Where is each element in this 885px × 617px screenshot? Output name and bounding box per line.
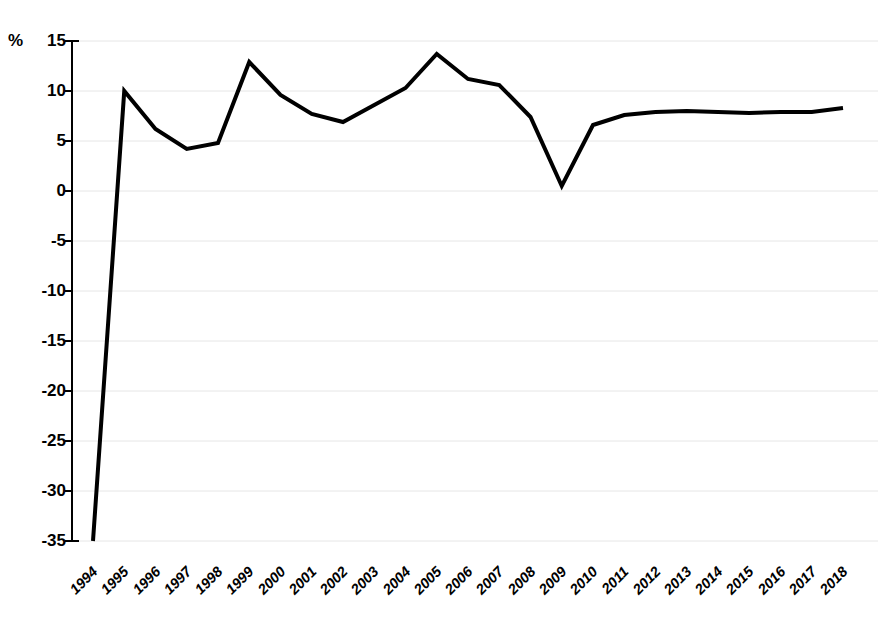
y-axis-ticks	[65, 41, 72, 541]
plot-area	[0, 0, 885, 617]
line-chart: % 151050-5-10-15-20-25-30-35 19941995199…	[0, 0, 885, 617]
gridlines	[72, 41, 878, 541]
data-line	[93, 54, 843, 541]
data-line-series	[93, 54, 843, 541]
